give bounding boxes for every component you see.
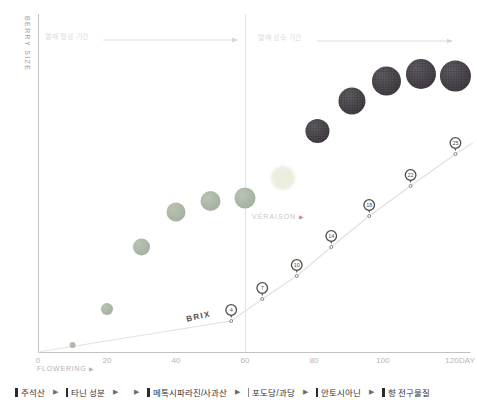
berry-transition <box>271 166 295 190</box>
x-axis-origin-label: FLOWERING▶ <box>37 365 94 372</box>
phase-label-berry-formation: 열매 형성 기간 <box>45 31 89 41</box>
brix-pin-anchor-dot <box>295 275 298 278</box>
brix-pin-anchor-dot <box>230 320 233 323</box>
brix-pin-value: 4 <box>230 307 233 313</box>
berry-green <box>235 188 256 209</box>
brix-pin-value: 18 <box>366 202 372 208</box>
x-tick-label: 0 <box>28 356 48 365</box>
legend-item: 향 전구물질 <box>382 386 430 398</box>
brix-pin-anchor-dot <box>330 246 333 249</box>
veraison-label: VÉRAISON▶ <box>252 213 304 220</box>
legend-bar-icon <box>147 388 150 397</box>
berry-green <box>101 303 113 315</box>
brix-pin: 4 <box>226 305 237 323</box>
phase-right-arrowhead-icon <box>447 39 453 44</box>
brix-pin: 22 <box>405 170 416 188</box>
legend-bar-icon <box>316 388 319 397</box>
phase-left-arrowhead-icon <box>232 38 238 43</box>
brix-pin-anchor-dot <box>409 185 412 188</box>
chart-canvas: 471014182225 <box>0 0 477 405</box>
x-tick-label: 80 <box>304 356 324 365</box>
brix-pin: 25 <box>450 138 461 156</box>
legend-bar-icon <box>382 388 385 397</box>
flowering-arrow-icon: ▶ <box>89 366 95 372</box>
x-tick-label: 40 <box>166 356 186 365</box>
berry-ripe-texture <box>372 67 401 96</box>
legend-flow-arrow-icon: ▶ <box>134 388 139 396</box>
legend-flow-arrow-icon: ▶ <box>235 388 240 396</box>
brix-pin-value: 22 <box>408 172 414 178</box>
veraison-arrow-icon: ▶ <box>299 214 304 220</box>
berry-ripe-texture <box>338 88 365 115</box>
berry-green <box>70 342 76 348</box>
brix-pin-anchor-dot <box>261 298 264 301</box>
veraison-text: VÉRAISON <box>252 213 296 220</box>
legend-bar-icon <box>15 388 18 397</box>
berry-green <box>201 191 221 211</box>
flowering-text: FLOWERING <box>37 365 87 372</box>
brix-pin: 18 <box>364 200 375 218</box>
berry-ripe-texture <box>440 61 471 92</box>
legend-item-label: 향 전구물질 <box>388 386 430 398</box>
brix-pin: 10 <box>291 260 302 278</box>
brix-pin: 14 <box>326 231 337 249</box>
legend-item: 안토시아닌 <box>316 386 362 398</box>
legend-bar-icon <box>66 388 69 397</box>
legend-item: 주석산 <box>15 386 45 398</box>
berry-ripe-texture <box>305 119 329 143</box>
legend-item-label: 포도당/과당 <box>252 386 294 398</box>
berry-green <box>133 239 150 256</box>
x-tick-label: 20 <box>97 356 117 365</box>
brix-pin-value: 14 <box>328 233 334 239</box>
brix-pin-value: 7 <box>261 285 264 291</box>
berry-development-chart: 471014182225 BERRY SIZE 열매 형성 기간 열매 성숙 기… <box>0 0 477 405</box>
x-axis-unit-label: DAY <box>459 356 475 365</box>
y-axis-label: BERRY SIZE <box>24 16 31 71</box>
legend-item: 메톡시파라진/사과산 <box>147 386 227 398</box>
legend-item-label: 메톡시파라진/사과산 <box>153 386 227 398</box>
legend-item: 타닌 성분 <box>66 386 106 398</box>
legend-item-label: 주석산 <box>21 386 45 398</box>
legend-flow-arrow-icon: ▶ <box>113 388 118 396</box>
brix-pin: 7 <box>257 283 268 301</box>
legend-flow-arrow-icon: ▶ <box>369 388 374 396</box>
brix-pin-anchor-dot <box>454 153 457 156</box>
x-tick-label: 60 <box>235 356 255 365</box>
berry-green <box>167 203 186 222</box>
brix-pin-value: 10 <box>294 262 300 268</box>
legend-item-label: 안토시아닌 <box>321 386 361 398</box>
legend-flow-arrow-icon: ▶ <box>303 388 308 396</box>
brix-pin-anchor-dot <box>368 215 371 218</box>
berry-ripe-texture <box>406 59 436 89</box>
brix-pin-value: 25 <box>452 140 458 146</box>
legend-item-label: 타닌 성분 <box>71 386 105 398</box>
compound-flow-legend: 주석산▶타닌 성분▶▶메톡시파라진/사과산▶포도당/과당▶안토시아닌▶향 전구물… <box>15 386 475 398</box>
phase-label-berry-ripening: 열매 성숙 기간 <box>258 32 302 42</box>
legend-bar-icon <box>248 388 249 397</box>
x-tick-label: 100 <box>373 356 393 365</box>
legend-item: 포도당/과당 <box>248 386 294 398</box>
legend-flow-arrow-icon: ▶ <box>53 388 58 396</box>
